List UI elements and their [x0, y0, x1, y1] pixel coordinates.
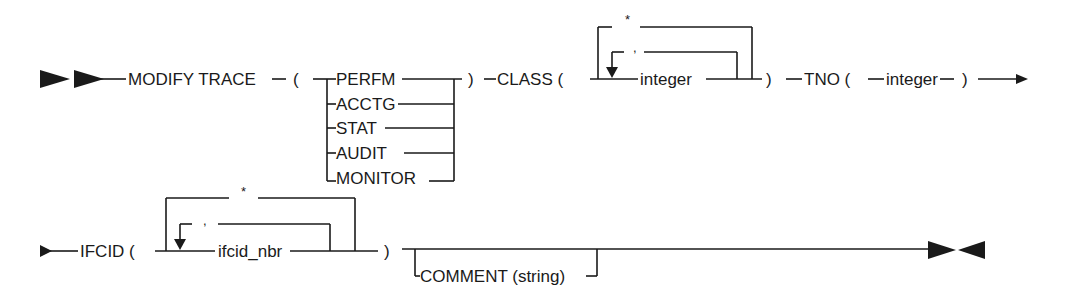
trace-type-choice: PERFM ACCTG STAT AUDIT MONITOR	[313, 70, 462, 188]
open-paren: (	[293, 70, 299, 89]
syntax-diagram: MODIFY TRACE ( PERFM ACCTG STAT AUDIT MO…	[0, 0, 1081, 290]
class-value: integer	[640, 70, 692, 89]
end-arrows-icon	[928, 241, 985, 259]
tno-keyword: TNO (	[804, 70, 851, 89]
class-close-paren: )	[766, 70, 772, 89]
repeat-arrow-icon	[174, 239, 186, 250]
ifcid-default-star: *	[241, 184, 246, 199]
ifcid-separator: ,	[203, 213, 207, 228]
command-keyword: MODIFY TRACE	[128, 70, 256, 89]
option-stat: STAT	[336, 119, 377, 138]
class-default-star: *	[625, 12, 630, 27]
comment-optional-group: COMMENT (string)	[402, 249, 930, 286]
ifcid-keyword: IFCID (	[80, 242, 135, 261]
class-repeat-group: * , integer	[590, 12, 762, 89]
class-separator: ,	[633, 40, 637, 55]
close-paren: )	[468, 70, 474, 89]
option-perfm: PERFM	[336, 70, 396, 89]
repeat-arrow-icon	[606, 67, 618, 78]
tno-close-paren: )	[962, 70, 968, 89]
ifcid-repeat-group: * , ifcid_nbr	[155, 184, 378, 261]
option-audit: AUDIT	[336, 144, 387, 163]
ifcid-close-paren: )	[384, 242, 390, 261]
continue-arrow-icon	[978, 74, 1028, 84]
comment-option: COMMENT (string)	[420, 267, 565, 286]
class-keyword: CLASS (	[497, 70, 563, 89]
option-acctg: ACCTG	[336, 95, 396, 114]
ifcid-value: ifcid_nbr	[218, 242, 283, 261]
option-monitor: MONITOR	[336, 169, 416, 188]
start-double-arrow-icon	[40, 70, 104, 88]
tno-value: integer	[886, 70, 938, 89]
